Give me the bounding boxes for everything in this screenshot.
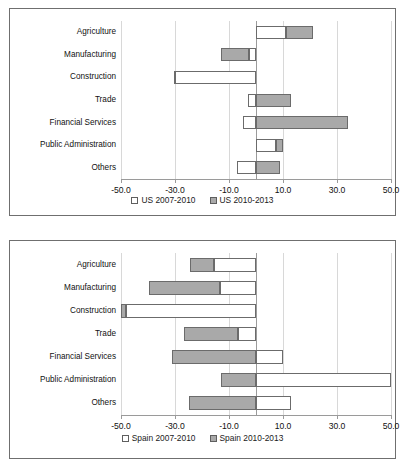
bar-segment: [221, 373, 256, 387]
bar-segment: [256, 94, 291, 107]
bar-segment: [214, 258, 256, 272]
x-axis-tick-label: -50.0: [111, 421, 131, 431]
x-axis-tick: [121, 415, 122, 419]
legend-item[interactable]: Spain 2007-2010: [122, 433, 196, 443]
chart-panel-us: AgricultureManufacturingConstructionTrad…: [9, 8, 396, 216]
bar-segment: [149, 281, 219, 295]
legend-swatch-icon: [210, 435, 217, 442]
bar-segment: [256, 396, 291, 410]
bar-row: [121, 258, 391, 272]
legend-item[interactable]: US 2007-2010: [131, 195, 195, 205]
bar-segment: [190, 258, 214, 272]
x-axis-tick: [229, 179, 230, 183]
category-label: Construction: [70, 72, 116, 81]
legend-item[interactable]: Spain 2010-2013: [210, 433, 284, 443]
x-axis-tick: [229, 415, 230, 419]
legend-label: US 2010-2013: [220, 195, 274, 205]
plot-wrap-spain: AgricultureManufacturingConstructionTrad…: [10, 241, 395, 458]
bar-row: [121, 48, 391, 61]
plot-area-us: [121, 21, 391, 179]
bar-segment: [189, 396, 257, 410]
x-axis-line-us: [121, 179, 391, 180]
bar-segment: [256, 116, 348, 129]
bar-row: [121, 116, 391, 129]
bar-row: [121, 26, 391, 39]
gridline: [391, 253, 392, 415]
x-axis-tick-label: 50.0: [383, 185, 400, 195]
category-label: Trade: [95, 329, 116, 338]
legend-label: US 2007-2010: [141, 195, 195, 205]
bar-row: [121, 94, 391, 107]
bar-segment: [256, 161, 280, 174]
x-axis-tick: [391, 179, 392, 183]
category-label: Public Administration: [40, 375, 116, 384]
bar-segment: [249, 48, 256, 61]
figure-two-stacked-bar-charts: AgricultureManufacturingConstructionTrad…: [0, 0, 407, 469]
bar-row: [121, 304, 391, 318]
category-label: Manufacturing: [64, 283, 116, 292]
bar-segment: [256, 350, 283, 364]
x-axis-tick: [337, 415, 338, 419]
bar-segment: [256, 26, 286, 39]
legend-swatch-icon: [210, 197, 217, 204]
bar-segment: [184, 327, 238, 341]
bar-segment: [286, 26, 313, 39]
bar-segment: [220, 281, 256, 295]
legend-item[interactable]: US 2010-2013: [210, 195, 274, 205]
bar-segment: [126, 304, 256, 318]
bar-row: [121, 161, 391, 174]
x-axis-tick-label: -30.0: [165, 421, 185, 431]
legend-spain: Spain 2007-2010Spain 2010-2013: [10, 433, 395, 443]
gridline: [391, 21, 392, 179]
category-label: Public Administration: [40, 140, 116, 149]
category-label: Agriculture: [77, 27, 116, 36]
bar-row: [121, 281, 391, 295]
x-axis-tick: [391, 415, 392, 419]
category-label: Financial Services: [50, 118, 116, 127]
category-label: Agriculture: [77, 260, 116, 269]
category-label: Manufacturing: [64, 50, 116, 59]
bar-row: [121, 139, 391, 152]
x-axis-tick-label: 50.0: [383, 421, 400, 431]
x-axis-tick: [175, 415, 176, 419]
x-axis-tick-label: -10.0: [219, 421, 239, 431]
bar-segment: [243, 116, 257, 129]
bar-segment: [221, 48, 249, 61]
bar-segment: [174, 71, 176, 84]
x-axis-tick-label: -50.0: [111, 185, 131, 195]
bar-segment: [237, 161, 256, 174]
bar-segment: [121, 304, 126, 318]
bar-segment: [172, 350, 256, 364]
legend-us: US 2007-2010US 2010-2013: [10, 195, 395, 205]
bar-segment: [256, 373, 391, 387]
plot-area-spain: [121, 253, 391, 415]
chart-panel-spain: AgricultureManufacturingConstructionTrad…: [9, 240, 396, 459]
bar-row: [121, 350, 391, 364]
x-axis-tick: [175, 179, 176, 183]
category-label: Others: [91, 163, 116, 172]
category-label: Construction: [70, 306, 116, 315]
bar-row: [121, 327, 391, 341]
x-axis-line-spain: [121, 415, 391, 416]
legend-swatch-icon: [122, 435, 129, 442]
category-label: Others: [91, 398, 116, 407]
legend-swatch-icon: [131, 197, 138, 204]
x-axis-tick-label: 10.0: [275, 421, 292, 431]
legend-label: Spain 2007-2010: [132, 433, 196, 443]
x-axis-tick: [283, 179, 284, 183]
x-axis-tick: [283, 415, 284, 419]
bar-segment: [248, 94, 256, 107]
legend-label: Spain 2010-2013: [220, 433, 284, 443]
bar-row: [121, 71, 391, 84]
plot-wrap-us: AgricultureManufacturingConstructionTrad…: [10, 9, 395, 215]
x-axis-tick-label: 10.0: [275, 185, 292, 195]
x-axis-tick-label: -30.0: [165, 185, 185, 195]
category-label: Financial Services: [50, 352, 116, 361]
x-axis-tick: [337, 179, 338, 183]
x-axis-tick-label: 30.0: [329, 185, 346, 195]
bar-segment: [238, 327, 256, 341]
bar-row: [121, 373, 391, 387]
x-axis-tick-label: -10.0: [219, 185, 239, 195]
category-label: Trade: [95, 95, 116, 104]
bar-segment: [175, 71, 256, 84]
